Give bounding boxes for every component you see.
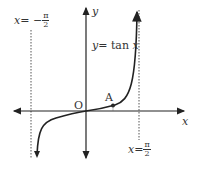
tan-curve [37, 12, 137, 155]
curve-equation-label: y= tan x [92, 40, 139, 51]
right-asym-fraction: π2 [143, 141, 150, 158]
left-asym-eq: = − [20, 14, 42, 27]
right-asymptote-label: x=π2 [128, 141, 151, 158]
left-asym-fraction: π2 [42, 12, 49, 29]
left-asymptote-label: x= −π2 [14, 12, 49, 29]
curve-eq-x: x [133, 39, 139, 52]
frac-den: 2 [143, 150, 150, 158]
y-axis-label: y [92, 6, 98, 17]
point-a-label: A [105, 92, 113, 103]
tan-graph-diagram: y x O A y= tan x x= −π2 x=π2 [0, 0, 198, 169]
right-asym-eq: = [134, 143, 143, 156]
x-axis-label: x [182, 116, 188, 127]
origin-label: O [74, 100, 83, 111]
frac-den: 2 [42, 21, 49, 29]
curve-eq-tan: = tan [98, 39, 132, 52]
